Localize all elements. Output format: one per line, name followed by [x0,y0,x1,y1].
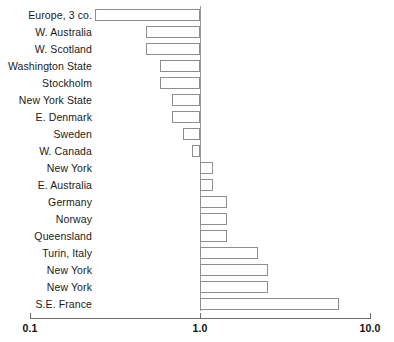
category-label: W. Canada [39,144,92,159]
category-label: New York [47,280,92,295]
x-axis-tick [370,313,371,319]
bar [200,264,268,276]
category-label: E. Australia [38,178,92,193]
bar [200,162,213,174]
x-axis-tick-label: 10.0 [359,322,380,334]
category-label: Washington State [8,59,92,74]
x-axis-tick-label: 1.0 [192,322,207,334]
bar-row: Stockholm [0,75,394,92]
bar-row: S.E. France [0,296,394,313]
category-label: W. Australia [35,25,92,40]
category-label: Queensland [34,229,92,244]
bar-row: Sweden [0,126,394,143]
category-label: Stockholm [42,76,92,91]
bar [200,247,258,259]
category-label: E. Denmark [36,110,92,125]
category-label: S.E. France [35,297,92,312]
bar [200,281,268,293]
bar [95,9,200,21]
bar-row: Germany [0,194,394,211]
bar [200,230,227,242]
bar [160,77,200,89]
plot-area: Europe, 3 co.W. AustraliaW. ScotlandWash… [0,0,394,312]
bar-row: Europe, 3 co. [0,7,394,24]
category-label: Turin, Italy [42,246,92,261]
bar-row: New York [0,279,394,296]
bar [200,298,339,310]
category-label: New York [47,161,92,176]
bar [192,145,200,157]
x-axis-tick-label: 0.1 [22,322,37,334]
bar [160,60,200,72]
bar-row: Queensland [0,228,394,245]
x-axis-tick [200,313,201,319]
bar [146,43,200,55]
bar-row: W. Canada [0,143,394,160]
bar-row: New York [0,160,394,177]
bar-row: New York [0,262,394,279]
category-label: New York State [19,93,92,108]
category-label: Sweden [53,127,92,142]
category-label: W. Scotland [35,42,92,57]
bar [183,128,200,140]
log-bar-chart: Europe, 3 co.W. AustraliaW. ScotlandWash… [0,0,394,342]
bar-row: E. Australia [0,177,394,194]
bar [146,26,200,38]
category-label: New York [47,263,92,278]
bar [200,179,213,191]
bar-row: W. Scotland [0,41,394,58]
x-axis-tick [30,313,31,319]
bar [200,196,227,208]
bar-row: Turin, Italy [0,245,394,262]
category-label: Norway [56,212,92,227]
bar [172,111,200,123]
bar [172,94,200,106]
bar-row: W. Australia [0,24,394,41]
bar-row: New York State [0,92,394,109]
bar-row: E. Denmark [0,109,394,126]
bar [200,213,227,225]
category-label: Europe, 3 co. [28,8,92,23]
category-label: Germany [48,195,92,210]
bar-row: Washington State [0,58,394,75]
bar-row: Norway [0,211,394,228]
